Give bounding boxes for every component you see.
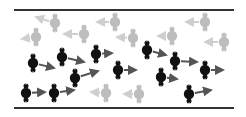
molecule-icon — [184, 89, 194, 99]
dark-particle — [70, 69, 98, 88]
arrow-right-icon — [181, 61, 197, 62]
molecule-icon — [110, 17, 120, 27]
arrow-right-icon — [81, 71, 98, 76]
molecule-icon — [101, 88, 111, 98]
light-particle — [117, 29, 138, 48]
molecule-icon — [49, 88, 59, 98]
light-particle — [22, 28, 41, 47]
molecule-icon — [28, 58, 38, 68]
molecule-icon — [70, 73, 80, 83]
light-particle — [36, 14, 60, 33]
molecule-icon — [200, 65, 210, 75]
molecule-icon — [156, 72, 166, 82]
light-particle — [64, 25, 89, 44]
molecule-icon — [91, 49, 101, 59]
arrow-left-icon — [91, 92, 100, 93]
arrow-right-icon — [195, 90, 211, 93]
dark-particle — [170, 52, 197, 71]
molecule-icon — [167, 31, 177, 41]
arrow-right-icon — [60, 90, 74, 92]
dark-particle — [184, 85, 211, 104]
molecule-icon — [57, 52, 67, 62]
arrow-right-icon — [167, 78, 177, 79]
light-particle — [186, 13, 210, 32]
light-particle — [124, 85, 144, 104]
particle-flow-diagram — [0, 0, 246, 117]
dark-particle — [57, 48, 84, 67]
arrow-right-icon — [39, 64, 54, 68]
arrow-right-icon — [32, 92, 45, 93]
arrow-right-icon — [153, 52, 166, 55]
molecule-icon — [31, 32, 41, 42]
arrow-right-icon — [102, 53, 112, 54]
light-particle — [205, 33, 229, 52]
arrow-left-icon — [22, 38, 30, 39]
dark-particle — [156, 68, 177, 87]
dark-particles-group — [21, 41, 223, 104]
light-particle — [97, 13, 120, 32]
molecule-icon — [219, 37, 229, 47]
dark-particle — [142, 41, 166, 60]
molecule-icon — [142, 45, 152, 55]
arrow-right-icon — [68, 58, 84, 62]
molecule-icon — [79, 29, 89, 39]
molecule-icon — [128, 33, 138, 43]
molecule-icon — [170, 56, 180, 66]
molecule-icon — [134, 89, 144, 99]
dark-particle — [200, 61, 223, 80]
dark-particle — [21, 84, 45, 103]
dark-particle — [113, 61, 136, 80]
molecule-icon — [113, 65, 123, 75]
arrow-left-icon — [117, 37, 127, 38]
light-particle — [158, 27, 177, 46]
dark-particle — [91, 45, 112, 64]
molecule-icon — [200, 17, 210, 27]
molecule-icon — [50, 18, 60, 28]
arrow-left-icon — [36, 17, 49, 21]
light-particle — [91, 84, 111, 103]
molecule-icon — [21, 88, 31, 98]
dark-particle — [28, 54, 54, 73]
dark-particle — [49, 84, 74, 103]
